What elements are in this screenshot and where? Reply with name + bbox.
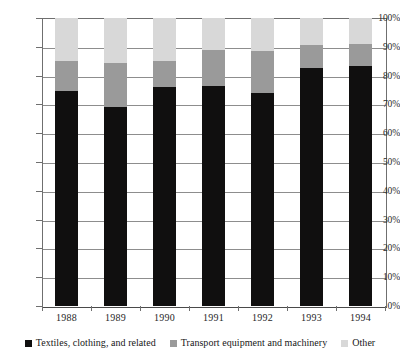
bar-group — [202, 18, 225, 306]
bar-segment-other — [55, 18, 78, 61]
bar-group — [251, 18, 274, 306]
legend-swatch-icon — [25, 340, 32, 347]
legend-item[interactable]: Transport equipment and machinery — [170, 337, 328, 349]
bar-group — [153, 18, 176, 306]
bar-segment-transport — [55, 61, 78, 91]
bar-segment-other — [300, 18, 323, 45]
bar-segment-textiles — [104, 107, 127, 306]
bar-segment-textiles — [55, 91, 78, 306]
legend-swatch-icon — [170, 340, 177, 347]
bar-segment-other — [104, 18, 127, 63]
x-axis-tick-mark — [385, 306, 386, 311]
bar-segment-other — [202, 18, 225, 50]
bar-segment-transport — [349, 44, 372, 66]
legend-label: Other — [352, 337, 375, 349]
x-axis-tick-mark — [189, 306, 190, 311]
bar-segment-textiles — [251, 93, 274, 306]
bar-segment-textiles — [153, 87, 176, 306]
legend-item[interactable]: Textiles, clothing, and related — [25, 337, 156, 349]
bar-segment-other — [349, 18, 372, 44]
bar-segment-other — [153, 18, 176, 61]
bar-group — [55, 18, 78, 306]
y-axis-tick-mark — [36, 133, 42, 134]
y-axis-tick-mark — [36, 104, 42, 105]
legend-label: Transport equipment and machinery — [181, 337, 328, 349]
stacked-bar-chart: 0%10%20%30%40%50%60%70%80%90%100% 198819… — [0, 0, 400, 356]
bar-group — [300, 18, 323, 306]
y-axis-tick-mark — [36, 248, 42, 249]
bar-segment-transport — [202, 50, 225, 85]
bar-segment-other — [251, 18, 274, 51]
x-axis-tick-mark — [91, 306, 92, 311]
bar-segment-textiles — [300, 68, 323, 306]
x-axis-tick-mark — [42, 306, 43, 311]
y-axis-tick-mark — [36, 277, 42, 278]
bar-group — [104, 18, 127, 306]
bar-segment-transport — [104, 63, 127, 108]
bar-segment-transport — [153, 61, 176, 87]
x-axis-tick-label: 1994 — [331, 312, 391, 324]
y-axis-tick-mark — [36, 162, 42, 163]
x-axis-tick-mark — [336, 306, 337, 311]
bar-segment-transport — [300, 45, 323, 68]
x-axis-tick-mark — [238, 306, 239, 311]
y-axis-tick-mark — [36, 191, 42, 192]
bar-segment-textiles — [202, 86, 225, 306]
y-axis-tick-mark — [36, 18, 42, 19]
y-axis-tick-mark — [36, 220, 42, 221]
bar-group — [349, 18, 372, 306]
x-axis-tick-mark — [287, 306, 288, 311]
chart-legend: Textiles, clothing, and relatedTransport… — [0, 333, 400, 353]
bar-segment-textiles — [349, 66, 372, 306]
y-axis-tick-mark — [36, 47, 42, 48]
x-axis-tick-mark — [140, 306, 141, 311]
y-axis-tick-mark — [36, 76, 42, 77]
legend-item[interactable]: Other — [341, 337, 375, 349]
legend-label: Textiles, clothing, and related — [36, 337, 156, 349]
bar-segment-transport — [251, 51, 274, 93]
legend-swatch-icon — [341, 340, 348, 347]
